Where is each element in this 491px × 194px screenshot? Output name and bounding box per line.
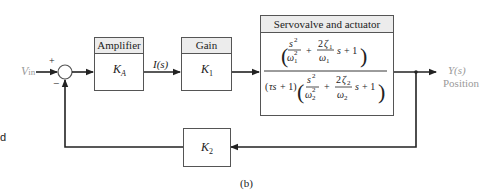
servovalve-title: Servovalve and actuator [261, 16, 393, 33]
svg-text:2: 2 [294, 36, 298, 44]
svg-text:+: + [306, 45, 312, 56]
svg-text:1: 1 [294, 57, 298, 65]
svg-text:ω: ω [337, 89, 344, 100]
gain-block: Gain K1 [181, 37, 232, 91]
amplifier-block: Amplifier KA [94, 37, 144, 91]
gain-title: Gain [182, 38, 231, 54]
svg-text:2: 2 [312, 94, 316, 102]
servovalve-block: Servovalve and actuator ( s2 ω12 + 2ζ1 ω… [260, 15, 394, 116]
svg-text:+ 1): + 1) [280, 81, 296, 93]
svg-text:2: 2 [318, 38, 323, 49]
svg-text:): ) [378, 79, 385, 104]
svg-text:τs: τs [269, 81, 277, 92]
block-diagram-wires [0, 0, 491, 194]
gain-value: K1 [201, 62, 213, 78]
svg-text:1: 1 [326, 57, 330, 65]
svg-text:2: 2 [347, 79, 351, 87]
svg-text:+ 1: + 1 [362, 81, 375, 92]
svg-text:s: s [337, 45, 341, 56]
current-signal-label: I(s) [153, 58, 168, 70]
output-description: Position [443, 77, 479, 89]
svg-text:(: ( [297, 79, 304, 104]
summing-junction [58, 65, 72, 79]
cropped-text-fragment: d [0, 131, 6, 143]
svg-text:ω: ω [305, 89, 312, 100]
svg-text:2: 2 [312, 72, 316, 80]
amplifier-gain: KA [113, 62, 126, 78]
svg-text:2: 2 [336, 74, 341, 85]
svg-text:+ 1: + 1 [344, 45, 357, 56]
svg-text:ω: ω [319, 52, 326, 63]
svg-text:2: 2 [344, 94, 348, 102]
transfer-function: ( s2 ω12 + 2ζ1 ω1 s + 1 ) (τs+ 1) ( s2 ω… [261, 33, 393, 115]
feedback-gain-value: K2 [201, 140, 213, 156]
output-signal-label: Y(s) [448, 64, 466, 76]
plus-sign: + [49, 55, 55, 66]
svg-text:ω: ω [287, 52, 294, 63]
input-label: Vin [21, 64, 35, 79]
minus-sign: − [53, 77, 59, 89]
figure-caption: (b) [240, 177, 253, 189]
svg-text:2: 2 [294, 49, 298, 57]
svg-text:s: s [355, 81, 359, 92]
amplifier-title: Amplifier [95, 38, 143, 54]
svg-text:2: 2 [312, 86, 316, 94]
svg-text:s: s [289, 38, 293, 49]
svg-text:): ) [360, 43, 367, 68]
svg-text:s: s [307, 74, 311, 85]
feedback-gain-block: K2 [183, 128, 231, 167]
svg-text:+: + [324, 81, 330, 92]
